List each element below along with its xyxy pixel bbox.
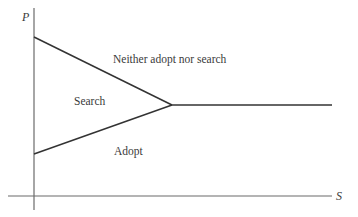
region-label-search: Search xyxy=(74,96,105,108)
decision-region-diagram xyxy=(0,0,358,217)
region-label-neither: Neither adopt nor search xyxy=(113,54,226,66)
p-axis-label: P xyxy=(22,11,29,23)
region-label-adopt: Adopt xyxy=(114,146,143,158)
lower-boundary-line xyxy=(34,105,172,154)
s-axis-label: S xyxy=(336,190,342,202)
